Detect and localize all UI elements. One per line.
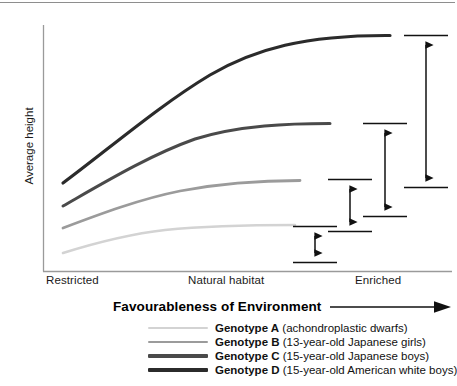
x-tick-label-natural-habitat: Natural habitat bbox=[188, 274, 264, 286]
legend-label-genotype-a-name: Genotype A bbox=[215, 322, 279, 334]
curve-genotype-a bbox=[63, 225, 295, 253]
y-axis-title: Average height bbox=[23, 86, 35, 206]
legend-item-genotype-d: Genotype D (15-year-old American white b… bbox=[148, 363, 457, 377]
right-arrow-icon bbox=[330, 300, 452, 314]
legend-item-genotype-a: Genotype A (achondroplastic dwarfs) bbox=[148, 321, 457, 335]
range-arrow-genotype-c bbox=[363, 124, 407, 217]
legend-label-genotype-d-detail: (15-year-old American white boys) bbox=[280, 364, 457, 376]
x-tick-label-restricted: Restricted bbox=[46, 274, 99, 286]
legend-swatch-genotype-a bbox=[148, 327, 208, 330]
range-arrow-genotype-b bbox=[328, 180, 372, 232]
legend-label-genotype-d: Genotype D (15-year-old American white b… bbox=[215, 364, 457, 376]
curve-genotype-c bbox=[63, 124, 330, 207]
legend-label-genotype-c-detail: (15-year-old Japanese boys) bbox=[280, 350, 430, 362]
legend-swatch-genotype-b bbox=[148, 341, 208, 344]
x-tick-label-enriched: Enriched bbox=[355, 274, 401, 286]
legend-label-genotype-b-detail: (13-year-old Japanese girls) bbox=[280, 336, 426, 348]
legend-swatch-genotype-d bbox=[148, 368, 208, 372]
legend-label-genotype-c: Genotype C (15-year-old Japanese boys) bbox=[215, 350, 429, 362]
legend-item-genotype-c: Genotype C (15-year-old Japanese boys) bbox=[148, 349, 457, 363]
legend-label-genotype-a: Genotype A (achondroplastic dwarfs) bbox=[215, 322, 408, 334]
legend-label-genotype-b-name: Genotype B bbox=[215, 336, 280, 348]
curve-genotype-d bbox=[63, 35, 390, 183]
legend-label-genotype-d-name: Genotype D bbox=[215, 364, 280, 376]
legend-item-genotype-b: Genotype B (13-year-old Japanese girls) bbox=[148, 335, 457, 349]
x-axis-title: Favourableness of Environment bbox=[113, 299, 321, 314]
legend-label-genotype-a-detail: (achondroplastic dwarfs) bbox=[279, 322, 407, 334]
curve-genotype-b bbox=[63, 181, 300, 229]
legend: Genotype A (achondroplastic dwarfs) Geno… bbox=[148, 321, 457, 377]
x-axis-title-group: Favourableness of Environment bbox=[113, 299, 452, 314]
legend-label-genotype-c-name: Genotype C bbox=[215, 350, 280, 362]
legend-label-genotype-b: Genotype B (13-year-old Japanese girls) bbox=[215, 336, 426, 348]
range-arrow-genotype-d bbox=[404, 36, 448, 188]
legend-swatch-genotype-c bbox=[148, 354, 208, 357]
